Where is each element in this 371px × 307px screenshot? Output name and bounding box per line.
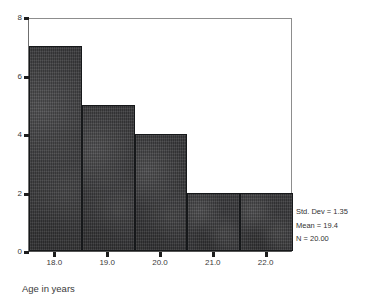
x-axis-tick [53,252,56,257]
y-axis-tick [24,193,29,196]
x-axis-tick-label: 22.0 [249,259,283,267]
y-axis-tick-label: 8 [8,14,22,22]
histogram-bar [187,193,240,252]
y-axis-tick [24,17,29,20]
y-axis-tick [24,134,29,137]
y-axis-tick-label: 4 [8,131,22,139]
y-axis-tick [24,76,29,79]
histogram-bar [135,134,188,251]
y-axis-tick-label: 6 [8,73,22,81]
x-axis-tick-label: 21.0 [196,259,230,267]
stat-std-dev: Std. Dev = 1.35 [296,205,370,219]
histogram-bar [29,46,82,251]
stat-n: N = 20.00 [296,232,370,246]
stat-mean: Mean = 19.4 [296,219,370,233]
bar-series [29,19,291,251]
histogram-bar [240,193,293,252]
x-axis-tick-label: 19.0 [90,259,124,267]
x-axis-tick [212,252,215,257]
x-axis-tick [159,252,162,257]
y-axis-tick-label: 0 [8,248,22,256]
y-axis-tick-label: 2 [8,190,22,198]
x-axis-tick [106,252,109,257]
x-axis-tick-label: 20.0 [143,259,177,267]
statistics-annotation: Std. Dev = 1.35 Mean = 19.4 N = 20.00 [296,205,370,246]
plot-area [28,18,292,252]
histogram-chart: 02468 18.019.020.021.022.0 Age in years … [0,0,371,307]
histogram-bar [82,105,135,251]
x-axis-title: Age in years [22,283,75,294]
x-axis-tick [265,252,268,257]
x-axis-tick-label: 18.0 [37,259,71,267]
y-axis-tick [24,251,29,254]
